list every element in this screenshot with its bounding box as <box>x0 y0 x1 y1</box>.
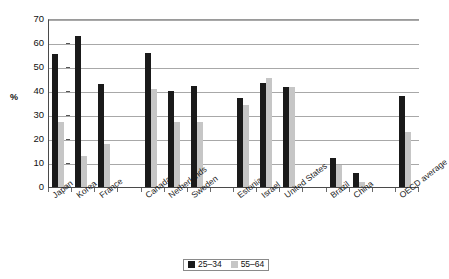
y-axis-tick-label: 30 <box>20 110 44 120</box>
bar-group <box>233 0 256 188</box>
bar-group <box>187 0 210 188</box>
bar-group <box>164 0 187 188</box>
black-square-swatch <box>188 261 195 268</box>
bar-group <box>256 0 279 188</box>
legend-item: 25–34 <box>188 260 222 269</box>
x-axis-category-labels: JapanKoreaFranceCanadaNetherlandsSwedenE… <box>0 190 428 252</box>
bar <box>243 105 249 187</box>
y-axis-tick-label: 20 <box>20 134 44 144</box>
bar <box>151 89 157 187</box>
y-axis-ticks: 010203040506070 <box>20 0 44 200</box>
bar-group-empty <box>372 0 395 188</box>
bar <box>405 132 411 187</box>
bar <box>58 122 64 187</box>
bar-group <box>94 0 117 188</box>
bar-group-empty <box>117 0 140 188</box>
legend-label: 55–64 <box>241 260 265 269</box>
bar-group <box>349 0 372 188</box>
bar-group <box>141 0 164 188</box>
chart-legend: 25–3455–64 <box>183 259 269 271</box>
y-axis-tick-label: 40 <box>20 86 44 96</box>
bar <box>289 87 295 187</box>
y-axis-tick-label: 60 <box>20 38 44 48</box>
bar <box>266 78 272 187</box>
bar <box>174 122 180 187</box>
legend-item: 55–64 <box>231 260 265 269</box>
gray-square-swatch <box>231 261 238 268</box>
y-axis-tick-label: 70 <box>20 14 44 24</box>
bar-group <box>395 0 418 188</box>
bar-group-empty <box>210 0 233 188</box>
bar <box>104 144 110 187</box>
y-axis-tick-label: 10 <box>20 158 44 168</box>
bar-group <box>326 0 349 188</box>
bars-layer <box>48 0 418 188</box>
y-axis-tick-label: 50 <box>20 62 44 72</box>
bar-group <box>71 0 94 188</box>
legend-label: 25–34 <box>198 260 222 269</box>
bar-group <box>279 0 302 188</box>
bar-group <box>48 0 71 188</box>
